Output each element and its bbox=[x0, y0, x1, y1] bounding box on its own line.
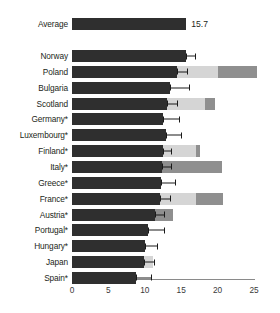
bar-segment-dark bbox=[72, 18, 186, 30]
bar-segment-mid bbox=[205, 98, 214, 110]
error-bar-cap-low bbox=[163, 116, 164, 122]
chart-row: Italy* bbox=[0, 161, 280, 173]
chart-row: Japan bbox=[0, 256, 280, 268]
row-plot-area bbox=[72, 177, 254, 189]
error-bar-cap-low bbox=[148, 227, 149, 233]
error-bar bbox=[136, 277, 152, 278]
category-label: Bulgaria bbox=[0, 84, 68, 92]
error-bar-cap-low bbox=[144, 259, 145, 265]
bar-segment-dark bbox=[72, 224, 148, 236]
row-plot-area bbox=[72, 82, 254, 94]
chart-row: France* bbox=[0, 193, 280, 205]
error-bar-cap-high bbox=[171, 148, 172, 154]
row-plot-area bbox=[72, 240, 254, 252]
error-bar bbox=[145, 246, 158, 247]
chart-row: Finland* bbox=[0, 145, 280, 157]
bar-segment-dark bbox=[72, 256, 144, 268]
row-plot-area bbox=[72, 129, 254, 141]
error-bar-cap-high bbox=[189, 85, 190, 91]
error-bar-cap-low bbox=[160, 196, 161, 202]
chart-row: Norway bbox=[0, 50, 280, 62]
x-tick-label: 5 bbox=[106, 286, 111, 294]
error-bar-cap-low bbox=[177, 69, 178, 75]
chart-row: Scotland bbox=[0, 98, 280, 110]
error-bar-cap-high bbox=[179, 116, 180, 122]
x-tick-label: 15 bbox=[177, 286, 186, 294]
bar-segment-dark bbox=[72, 82, 170, 94]
bar-segment-dark bbox=[72, 145, 163, 157]
row-plot-area bbox=[72, 98, 254, 110]
error-bar-cap-low bbox=[170, 85, 171, 91]
error-bar-cap-low bbox=[166, 132, 167, 138]
error-bar-cap-high bbox=[195, 53, 196, 59]
error-bar-cap-high bbox=[170, 196, 171, 202]
error-bar bbox=[186, 56, 197, 57]
bar-segment-dark bbox=[72, 209, 155, 221]
error-bar-cap-high bbox=[164, 227, 165, 233]
row-plot-area bbox=[72, 209, 254, 221]
chart-row: Poland bbox=[0, 66, 280, 78]
error-bar-cap-high bbox=[154, 259, 155, 265]
horizontal-bar-chart: Average15.7NorwayPolandBulgariaScotlandG… bbox=[0, 0, 280, 313]
row-plot-area bbox=[72, 256, 254, 268]
bar-segment-dark bbox=[72, 113, 163, 125]
chart-row: Bulgaria bbox=[0, 82, 280, 94]
error-bar-cap-high bbox=[177, 101, 178, 107]
error-bar-cap-high bbox=[181, 132, 182, 138]
error-bar bbox=[167, 103, 178, 104]
x-tick-label: 10 bbox=[140, 286, 149, 294]
category-label: Norway bbox=[0, 52, 68, 60]
category-label: Finland* bbox=[0, 147, 68, 155]
error-bar-cap-low bbox=[162, 164, 163, 170]
error-bar-cap-low bbox=[163, 148, 164, 154]
error-bar-cap-high bbox=[187, 69, 188, 75]
category-label: Luxembourg* bbox=[0, 131, 68, 139]
category-label: Italy* bbox=[0, 163, 68, 171]
x-tick-label: 20 bbox=[213, 286, 222, 294]
chart-row: Germany* bbox=[0, 113, 280, 125]
bar-segment-mid bbox=[196, 145, 200, 157]
category-label: Japan bbox=[0, 258, 68, 266]
category-label: Scotland bbox=[0, 99, 68, 107]
error-bar-cap-high bbox=[175, 180, 176, 186]
category-label: Hungary* bbox=[0, 242, 68, 250]
error-bar bbox=[161, 182, 176, 183]
row-plot-area: 15.7 bbox=[72, 18, 254, 30]
row-plot-area bbox=[72, 193, 254, 205]
value-label: 15.7 bbox=[191, 20, 208, 29]
chart-row: Greece* bbox=[0, 177, 280, 189]
x-axis: 0510152025 bbox=[0, 279, 280, 305]
error-bar-cap-low bbox=[167, 101, 168, 107]
row-plot-area bbox=[72, 50, 254, 62]
category-label: Poland bbox=[0, 68, 68, 76]
error-bar bbox=[170, 87, 190, 88]
category-label: Austria* bbox=[0, 210, 68, 218]
row-plot-area bbox=[72, 145, 254, 157]
category-label: France* bbox=[0, 194, 68, 202]
chart-row: Austria* bbox=[0, 209, 280, 221]
error-bar-cap-low bbox=[145, 243, 146, 249]
x-tick-label: 25 bbox=[249, 286, 258, 294]
bar-segment-mid bbox=[196, 193, 223, 205]
error-bar bbox=[163, 119, 180, 120]
bar-segment-dark bbox=[72, 50, 186, 62]
row-plot-area bbox=[72, 113, 254, 125]
bar-segment-dark bbox=[72, 161, 162, 173]
error-bar bbox=[162, 166, 171, 167]
error-bar-cap-high bbox=[151, 275, 152, 281]
chart-row: Luxembourg* bbox=[0, 129, 280, 141]
bar-segment-dark bbox=[72, 240, 145, 252]
summary-label: Average bbox=[0, 20, 68, 28]
bar-segment-dark bbox=[72, 98, 167, 110]
error-bar bbox=[160, 198, 171, 199]
category-label: Greece* bbox=[0, 179, 68, 187]
bar-segment-dark bbox=[72, 66, 177, 78]
error-bar bbox=[144, 262, 155, 263]
chart-row: Portugal* bbox=[0, 224, 280, 236]
category-label: Portugal* bbox=[0, 226, 68, 234]
error-bar-cap-high bbox=[171, 164, 172, 170]
error-bar-cap-low bbox=[155, 212, 156, 218]
summary-row: Average15.7 bbox=[0, 18, 280, 30]
category-label: Germany* bbox=[0, 115, 68, 123]
error-bar bbox=[177, 71, 188, 72]
